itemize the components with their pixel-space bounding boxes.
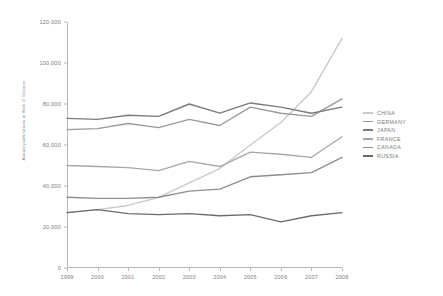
x-tick-label: 2004	[213, 274, 226, 280]
legend-swatch-icon	[363, 138, 373, 140]
x-tick-label: 1999	[60, 274, 73, 280]
legend-item-japan[interactable]: JAPAN	[363, 127, 406, 133]
series-lines	[67, 22, 342, 268]
x-tick-mark	[281, 268, 282, 271]
x-tick-label: 2002	[152, 274, 165, 280]
series-line-russia	[67, 210, 342, 222]
legend-item-label: RUSSIA	[377, 153, 399, 159]
x-tick-label: 2006	[274, 274, 287, 280]
x-tick-mark	[189, 268, 190, 271]
legend-item-label: GERMANY	[377, 119, 406, 125]
plot-area: 020,00040,00060,00080,000100,000120,000 …	[67, 22, 342, 268]
x-tick-label: 2007	[305, 274, 318, 280]
x-tick-label: 2005	[244, 274, 257, 280]
y-tick-label: 100,000	[39, 60, 67, 66]
legend-swatch-icon	[363, 112, 373, 114]
x-tick-label: 2008	[335, 274, 348, 280]
x-tick-label: 2001	[122, 274, 135, 280]
legend-swatch-icon	[363, 155, 373, 157]
series-line-germany	[67, 99, 342, 130]
legend-swatch-icon	[363, 147, 373, 149]
series-line-france	[67, 137, 342, 171]
x-tick-label: 2000	[91, 274, 104, 280]
legend-item-label: FRANCE	[377, 136, 401, 142]
x-tick-mark	[159, 268, 160, 271]
legend-item-france[interactable]: FRANCE	[363, 136, 406, 142]
line-chart: Annual publications in Web of Science 02…	[0, 0, 443, 296]
legend-item-label: JAPAN	[377, 127, 395, 133]
x-tick-label: 2003	[183, 274, 196, 280]
legend-item-label: CHINA	[377, 110, 395, 116]
x-tick-mark	[128, 268, 129, 271]
legend-item-china[interactable]: CHINA	[363, 110, 406, 116]
legend-item-germany[interactable]: GERMANY	[363, 119, 406, 125]
x-tick-mark	[67, 268, 68, 271]
legend-item-russia[interactable]: RUSSIA	[363, 153, 406, 159]
x-tick-mark	[98, 268, 99, 271]
y-axis-title: Annual publications in Web of Science	[21, 26, 26, 216]
y-tick-label: 120,000	[39, 19, 67, 25]
x-tick-mark	[220, 268, 221, 271]
legend-item-canada[interactable]: CANADA	[363, 144, 406, 150]
legend-swatch-icon	[363, 129, 373, 131]
series-line-china	[67, 38, 342, 212]
x-tick-mark	[342, 268, 343, 271]
x-tick-mark	[311, 268, 312, 271]
legend-swatch-icon	[363, 121, 373, 123]
series-line-japan	[67, 103, 342, 119]
legend-item-label: CANADA	[377, 144, 401, 150]
chart-legend: CHINAGERMANYJAPANFRANCECANADARUSSIA	[363, 110, 406, 159]
x-tick-mark	[250, 268, 251, 271]
